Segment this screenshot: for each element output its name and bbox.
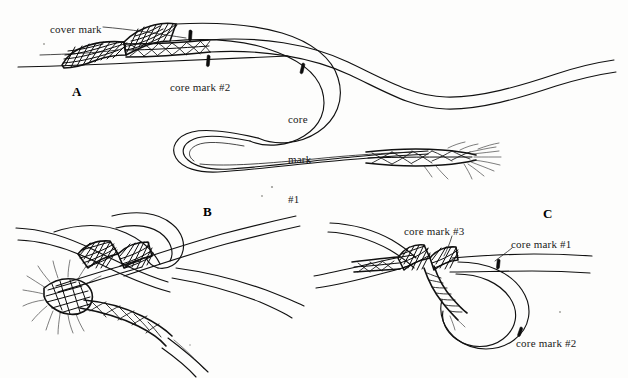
panel-a-artwork xyxy=(18,23,616,188)
label-core-mark-1-line-1: core xyxy=(288,113,311,126)
label-cover-mark: cover mark xyxy=(50,23,102,36)
figure-canvas: cover mark core mark #2 core mark #1 A B… xyxy=(0,0,628,378)
panel-b-frayed-end xyxy=(23,260,101,334)
label-core-mark-1-line-2: mark xyxy=(288,153,311,166)
label-core-mark-3-c: core mark #3 xyxy=(404,225,464,238)
panel-b-braid-sleeve-2 xyxy=(118,242,153,268)
braided-rope-end xyxy=(366,142,501,179)
panel-letter-c: C xyxy=(543,206,552,222)
panel-letter-a: A xyxy=(72,84,81,100)
label-core-mark-1-c: core mark #1 xyxy=(511,238,571,251)
panel-b-artwork xyxy=(16,195,304,377)
panel-letter-b: B xyxy=(203,204,212,220)
tick-cover-mark xyxy=(189,30,193,41)
tick-panel-c-loop xyxy=(518,327,523,337)
label-core-mark-2-c: core mark #2 xyxy=(516,337,576,350)
tick-core-mark-1-c xyxy=(496,259,500,269)
label-core-mark-2-a: core mark #2 xyxy=(170,81,230,94)
panel-c-core-braid-down xyxy=(424,266,467,330)
panel-c-braid-sleeve xyxy=(398,245,430,270)
tick-core-mark-2 xyxy=(206,55,210,67)
panel-b-plaited-strand xyxy=(80,300,208,377)
label-core-mark-1-line-3: #1 xyxy=(288,193,311,206)
rope-splice-illustration xyxy=(0,0,628,378)
label-core-mark-1-a: core mark #1 xyxy=(288,86,311,233)
